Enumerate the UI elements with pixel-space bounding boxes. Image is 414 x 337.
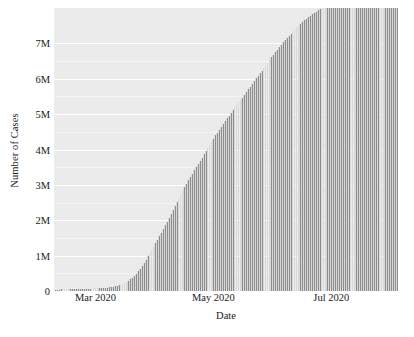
y-axis-tick-label: 5M [35, 109, 50, 120]
cases-bar-chart: Number of Cases 01M2M3M4M5M6M7M Mar 2020… [0, 0, 414, 337]
bars-layer [54, 8, 398, 291]
x-axis-tick-label: May 2020 [192, 292, 235, 303]
y-axis-tick-label: 6M [35, 73, 50, 84]
bar [396, 8, 398, 291]
y-axis-tick-label: 4M [35, 144, 50, 155]
y-axis-tick-labels: 01M2M3M4M5M6M7M [22, 0, 50, 337]
plot-panel [54, 8, 398, 291]
y-axis-title-label: Number of Cases [9, 113, 20, 187]
y-axis-tick-label: 2M [35, 215, 50, 226]
x-axis-title: Date [54, 310, 398, 321]
x-axis-tick-label: Mar 2020 [75, 292, 116, 303]
y-axis-tick-label: 1M [35, 250, 50, 261]
x-axis-tick-label: Jul 2020 [313, 292, 349, 303]
x-axis-tick-labels: Mar 2020May 2020Jul 2020 [0, 292, 414, 308]
y-axis-tick-label: 3M [35, 179, 50, 190]
y-axis-tick-label: 7M [35, 38, 50, 49]
